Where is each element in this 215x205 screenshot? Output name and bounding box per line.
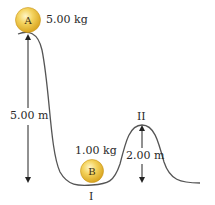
- point-i-label: I: [89, 191, 93, 202]
- roller-track-diagram: A B 5.00 kg 1.00 kg 5.00 m 2.00 m I II: [0, 0, 215, 205]
- ball-a: A: [16, 8, 41, 33]
- ball-b-mass-label: 1.00 kg: [75, 145, 117, 156]
- ball-b: B: [81, 160, 104, 183]
- diagram-canvas: A B: [0, 0, 215, 205]
- height-main-label: 5.00 m: [10, 110, 48, 121]
- ball-a-letter: A: [23, 15, 32, 26]
- height-hump-label: 2.00 m: [126, 150, 164, 161]
- ball-b-letter: B: [88, 166, 95, 177]
- point-ii-label: II: [137, 111, 146, 122]
- ball-a-mass-label: 5.00 kg: [46, 14, 88, 25]
